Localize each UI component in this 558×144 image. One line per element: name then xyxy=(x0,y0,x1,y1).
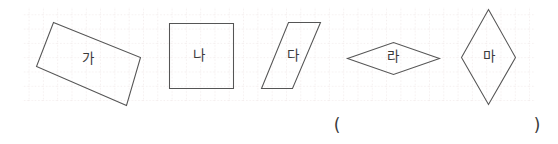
answer-parentheses-group: ( ) xyxy=(334,115,541,135)
shape-label-라: 라 xyxy=(387,48,400,64)
shape-label-다: 다 xyxy=(287,47,300,63)
shape-label-마: 마 xyxy=(483,48,496,64)
dotted-grid-background xyxy=(22,7,535,102)
geometry-figure-container: 가나다라마 ( ) xyxy=(0,0,558,144)
shape-label-나: 나 xyxy=(193,47,205,63)
answer-open-paren: ( xyxy=(334,115,341,135)
shape-label-가: 가 xyxy=(82,50,94,66)
geometry-figure-svg: 가나다라마 ( ) xyxy=(0,0,558,144)
answer-close-paren: ) xyxy=(534,115,541,135)
